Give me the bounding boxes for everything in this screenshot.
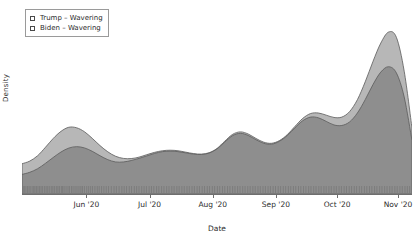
x-axis-tick <box>276 194 277 198</box>
x-axis-tick-label: Nov '20 <box>384 200 413 209</box>
legend-item-biden-wavering: Biden – Wavering <box>30 23 103 33</box>
x-axis-tick-label: Aug '20 <box>198 200 227 209</box>
legend-label: Trump – Wavering <box>40 13 103 23</box>
x-axis-tick-label: Sep '20 <box>262 200 290 209</box>
x-axis-line <box>22 194 412 195</box>
x-axis-tick-label: Jun '20 <box>73 200 99 209</box>
x-axis-tick <box>150 194 151 198</box>
x-axis-tick-label: Oct '20 <box>324 200 351 209</box>
x-axis-tick <box>398 194 399 198</box>
legend-swatch-icon <box>30 16 35 21</box>
x-axis-tick <box>86 194 87 198</box>
x-axis-tick <box>337 194 338 198</box>
legend-swatch-icon <box>30 26 35 31</box>
x-axis-tick <box>213 194 214 198</box>
y-axis-title: Density <box>2 38 10 138</box>
legend-item-trump-wavering: Trump – Wavering <box>30 13 103 23</box>
x-axis-tick-label: Jul '20 <box>138 200 161 209</box>
x-axis: Jun '20Jul '20Aug '20Sep '20Oct '20Nov '… <box>22 194 412 224</box>
density-chart: Density Jun '20Jul '20Aug '20Sep '20Oct … <box>0 0 418 243</box>
legend-label: Biden – Wavering <box>40 23 101 33</box>
x-axis-title: Date <box>22 224 412 233</box>
chart-legend: Trump – Wavering Biden – Wavering <box>25 9 109 37</box>
